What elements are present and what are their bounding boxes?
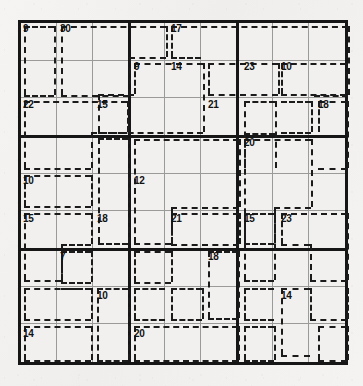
block-divider-horizontal [21,135,345,138]
cage-sum-label: 15 [244,214,255,224]
cage-sum-label: 21 [171,214,182,224]
sudoku-cell-r7c6[interactable] [201,249,237,287]
cage-sum-label: 22 [23,100,34,110]
sudoku-cell-r1c9[interactable] [309,23,345,61]
sudoku-cell-r1c6[interactable] [201,23,237,61]
cage-boundary-segment [348,26,350,95]
sudoku-cell-r4c8[interactable] [273,136,309,174]
block-divider-vertical [128,23,131,362]
cage-sum-label: 23 [281,214,292,224]
cage-boundary-segment [347,326,349,360]
cage-sum-label: 10 [97,291,108,301]
sudoku-cell-r3c2[interactable] [57,98,93,136]
sudoku-cell-r6c9[interactable] [309,211,345,249]
cage-sum-label: 10 [23,176,34,186]
sudoku-cell-r2c1[interactable] [21,61,57,99]
sudoku-cell-r5c5[interactable] [165,174,201,212]
sudoku-cell-r8c7[interactable] [237,287,273,325]
sudoku-cell-r9c5[interactable] [165,324,201,362]
cage-sum-label: 18 [97,214,108,224]
killer-sudoku-grid[interactable]: 9301791423102215211820101215182115237181… [18,20,348,365]
sudoku-cell-r5c2[interactable] [57,174,93,212]
cage-sum-label: 15 [97,100,108,110]
sudoku-cell-r2c9[interactable] [309,61,345,99]
sudoku-cell-r3c4[interactable] [129,98,165,136]
sudoku-cell-r8c6[interactable] [201,287,237,325]
sudoku-cell-r4c4[interactable] [129,136,165,174]
sudoku-cell-r7c9[interactable] [309,249,345,287]
cage-sum-label: 17 [171,24,182,34]
sudoku-cell-r8c4[interactable] [129,287,165,325]
sudoku-cell-r1c4[interactable] [129,23,165,61]
cage-boundary-segment [347,213,349,280]
killer-sudoku-grid-wrapper: 9301791423102215211820101215182115237181… [18,20,348,365]
sudoku-cell-r8c5[interactable] [165,287,201,325]
sudoku-cell-r4c7[interactable] [237,136,273,174]
cage-sum-label: 14 [281,291,292,301]
cage-sum-label: 7 [60,252,65,262]
sudoku-cell-r5c9[interactable] [309,174,345,212]
cage-sum-label: 30 [60,24,71,34]
sudoku-cell-r2c2[interactable] [57,61,93,99]
cage-sum-label: 18 [208,252,219,262]
sudoku-cell-r5c8[interactable] [273,174,309,212]
sudoku-cell-r5c6[interactable] [201,174,237,212]
sudoku-cell-r1c8[interactable] [273,23,309,61]
cage-sum-label: 12 [134,176,145,186]
cage-sum-label: 14 [171,62,182,72]
sudoku-cell-r2c3[interactable] [93,61,129,99]
sudoku-cell-r6c7[interactable] [237,211,273,249]
sudoku-cell-r8c9[interactable] [309,287,345,325]
sudoku-cell-r7c5[interactable] [165,249,201,287]
sudoku-cell-r9c9[interactable] [309,324,345,362]
sudoku-cell-r4c9[interactable] [309,136,345,174]
cage-sum-label: 21 [208,100,219,110]
sudoku-cell-r8c2[interactable] [57,287,93,325]
sudoku-cell-r5c3[interactable] [93,174,129,212]
cage-sum-label: 10 [281,62,292,72]
cage-sum-label: 9 [134,62,139,72]
cage-boundary-segment [346,63,348,94]
sudoku-cell-r5c7[interactable] [237,174,273,212]
sudoku-cell-r1c7[interactable] [237,23,273,61]
block-divider-horizontal [21,248,345,251]
sudoku-cell-r7c3[interactable] [93,249,129,287]
block-divider-vertical [236,23,239,362]
sudoku-cell-r9c3[interactable] [93,324,129,362]
sudoku-cell-r4c2[interactable] [57,136,93,174]
sudoku-cell-r4c6[interactable] [201,136,237,174]
sudoku-cell-r6c2[interactable] [57,211,93,249]
sudoku-cell-r8c1[interactable] [21,287,57,325]
sudoku-cell-r4c1[interactable] [21,136,57,174]
cage-sum-label: 20 [244,138,255,148]
sudoku-cell-r3c5[interactable] [165,98,201,136]
sudoku-cell-r6c4[interactable] [129,211,165,249]
sudoku-cell-r9c6[interactable] [201,324,237,362]
sudoku-cell-r9c7[interactable] [237,324,273,362]
sudoku-cell-r4c5[interactable] [165,136,201,174]
sudoku-cell-r4c3[interactable] [93,136,129,174]
sudoku-cell-r2c7[interactable] [237,61,273,99]
sudoku-cell-r9c2[interactable] [57,324,93,362]
cage-sum-label: 14 [23,329,34,339]
cage-sum-label: 18 [318,100,329,110]
sudoku-cell-r1c3[interactable] [93,23,129,61]
sudoku-cell-r7c1[interactable] [21,249,57,287]
sudoku-cell-r9c8[interactable] [273,324,309,362]
sudoku-cell-r2c6[interactable] [201,61,237,99]
cage-sum-label: 9 [23,24,28,34]
sudoku-cell-r3c8[interactable] [273,98,309,136]
sudoku-cell-r3c6[interactable] [201,98,237,136]
cage-sum-label: 20 [134,329,145,339]
cage-boundary-segment [347,288,349,319]
cage-sum-label: 15 [23,214,34,224]
cage-sum-label: 23 [244,62,255,72]
sudoku-cell-r7c7[interactable] [237,249,273,287]
sudoku-cell-r3c7[interactable] [237,98,273,136]
sudoku-cell-r6c6[interactable] [201,211,237,249]
sudoku-cell-r7c8[interactable] [273,249,309,287]
cage-boundary-segment [347,101,349,168]
sudoku-cell-r7c4[interactable] [129,249,165,287]
puzzle-page: 9301791423102215211820101215182115237181… [0,0,363,386]
